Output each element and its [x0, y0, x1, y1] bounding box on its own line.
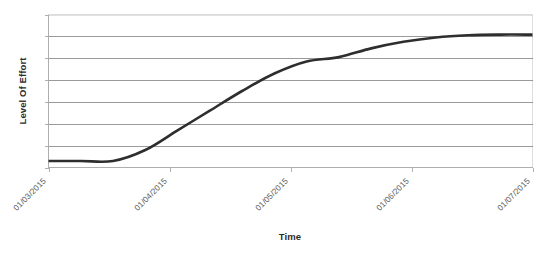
x-axis-title: Time — [279, 231, 301, 242]
chart-container: 01/03/201501/04/201501/05/201501/06/2015… — [0, 0, 552, 256]
level-of-effort-line-chart: 01/03/201501/04/201501/05/201501/06/2015… — [0, 0, 552, 256]
chart-background — [0, 0, 552, 256]
y-axis-title: Level Of Effort — [17, 57, 28, 125]
